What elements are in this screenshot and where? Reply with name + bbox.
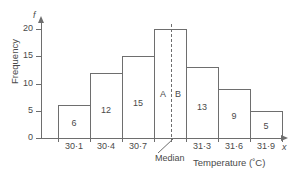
- y-tick-20: [36, 29, 41, 30]
- y-tick-label-10: 10: [11, 78, 33, 88]
- y-tick-label-0: 0: [11, 132, 33, 142]
- bar-value-label-5: 9: [218, 111, 250, 121]
- y-tick-10: [36, 84, 41, 85]
- x-tick-label-2: 30·7: [122, 141, 154, 151]
- x-tick-label-0: 30·1: [58, 141, 90, 151]
- x-axis-variable-label: x: [282, 142, 287, 152]
- y-axis-line: [41, 22, 42, 139]
- bar-value-label-0: 6: [58, 118, 90, 128]
- y-axis-arrow-icon: [38, 16, 44, 23]
- y-axis-title: Frequency: [9, 22, 20, 102]
- histogram-chart: f x Frequency Temperature (˚C) 05101520 …: [0, 0, 297, 179]
- y-tick-label-5: 5: [11, 105, 33, 115]
- x-axis-title: Temperature (˚C): [193, 157, 265, 168]
- y-tick-label-15: 15: [11, 50, 33, 60]
- x-tick-label-4: 31·6: [218, 141, 250, 151]
- y-axis-variable-label: f: [33, 10, 36, 20]
- y-tick-0: [36, 138, 41, 139]
- y-tick-5: [36, 111, 41, 112]
- y-tick-15: [36, 56, 41, 57]
- median-line: [171, 24, 172, 142]
- x-tick-label-5: 31·9: [250, 141, 282, 151]
- bar-value-label-6: 5: [250, 121, 282, 131]
- median-leader-line: [156, 139, 174, 154]
- region-b-label: B: [175, 89, 181, 99]
- x-tick-label-1: 30·4: [90, 141, 122, 151]
- bar-value-label-2: 15: [122, 98, 154, 108]
- median-label: Median: [155, 153, 185, 163]
- bar-value-label-1: 12: [90, 105, 122, 115]
- y-tick-label-20: 20: [11, 23, 33, 33]
- region-a-label: A: [160, 89, 166, 99]
- bar-value-label-4: 13: [186, 102, 218, 112]
- x-tick-label-3: 31·3: [186, 141, 218, 151]
